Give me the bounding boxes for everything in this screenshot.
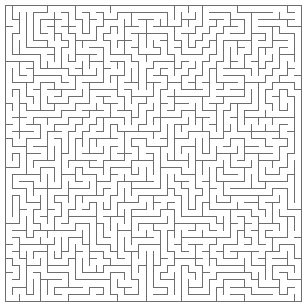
- maze-background: [0, 0, 308, 302]
- maze-grid[interactable]: [0, 0, 308, 302]
- maze-container: [0, 0, 308, 302]
